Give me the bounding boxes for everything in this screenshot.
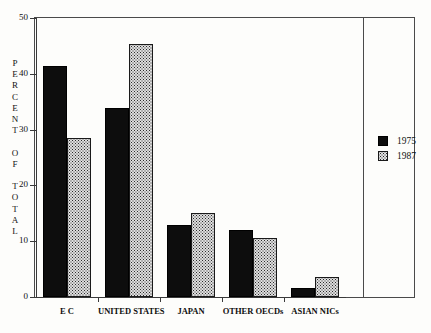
x-axis-line: [36, 297, 346, 298]
x-axis-label-asian-nics: ASIAN NICs: [284, 306, 346, 316]
bar-other-oecds-1987: [253, 238, 277, 297]
legend-item-1987: 1987: [378, 148, 416, 163]
y-tick-label: 20: [6, 180, 28, 189]
legend-swatch-icon: [378, 151, 388, 161]
bar-japan-1987: [191, 213, 215, 297]
bar-other-oecds-1975: [229, 230, 253, 297]
x-axis-label-japan: JAPAN: [160, 306, 222, 316]
x-axis-label-e-c: E C: [36, 306, 98, 316]
y-tick-label: 30: [6, 125, 28, 134]
bar-japan-1975: [167, 225, 191, 297]
x-axis-label-other-oecds: OTHER OECDs: [222, 306, 284, 316]
x-tick-mark: [222, 297, 223, 302]
legend-divider: [363, 18, 364, 297]
plot-area: [36, 18, 346, 297]
bar-asian-nics-1987: [315, 277, 339, 297]
legend-label: 1975: [397, 136, 416, 146]
y-axis-title: P E R C E N T O F T O T A L: [8, 58, 22, 237]
y-tick-label: 0: [6, 292, 28, 301]
x-tick-mark: [160, 297, 161, 302]
y-tick-label: 50: [6, 13, 28, 22]
bar-united-states-1987: [129, 44, 153, 297]
y-tick-mark: [30, 297, 36, 298]
bar-e-c-1975: [43, 66, 67, 297]
bar-chart: P E R C E N T O F T O T A L 01020304050 …: [0, 0, 431, 333]
legend-swatch-icon: [378, 136, 388, 146]
x-axis-label-united-states: UNITED STATES: [98, 306, 160, 316]
legend-label: 1987: [397, 151, 416, 161]
bar-e-c-1987: [67, 138, 91, 297]
y-tick-label: 10: [6, 236, 28, 245]
bar-asian-nics-1975: [291, 288, 315, 297]
x-tick-mark: [284, 297, 285, 302]
chart-legend: 19751987: [378, 133, 416, 163]
y-tick-label: 40: [6, 69, 28, 78]
x-tick-mark: [98, 297, 99, 302]
legend-item-1975: 1975: [378, 133, 416, 148]
bar-united-states-1975: [105, 108, 129, 297]
